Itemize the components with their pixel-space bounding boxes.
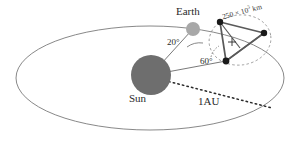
satellite-node-right	[261, 30, 267, 36]
angle-60-label: 60°	[200, 57, 213, 66]
satellite-node-bottom	[223, 58, 230, 65]
one-au-label: 1AU	[198, 96, 219, 107]
barycenter-marker	[228, 38, 236, 46]
angle-20-label: 20°	[167, 38, 180, 47]
earth-label: Earth	[176, 6, 200, 17]
diagram-vector-layer	[0, 0, 300, 141]
sun-label: Sun	[129, 93, 146, 104]
angle-arc-20	[187, 43, 203, 47]
earth-body	[186, 22, 200, 36]
satellite-dashed-orbit	[206, 11, 274, 69]
orbit-diagram-canvas: Earth Sun 1AU 20° 60° 250 × 103 km	[0, 0, 300, 141]
satellite-triangle-edges	[220, 22, 264, 61]
sun-body	[131, 55, 171, 95]
